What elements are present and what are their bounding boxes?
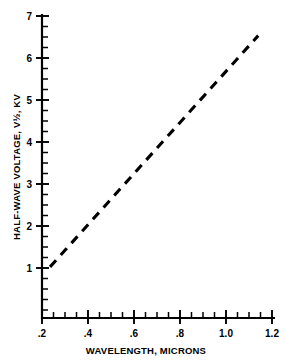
y-tick-label: 2: [26, 221, 32, 232]
x-tick-label: 1.0: [219, 328, 233, 339]
x-axis-title: WAVELENGTH, MICRONS: [86, 345, 206, 356]
x-tick-label: .4: [84, 328, 93, 339]
x-tick-label: .6: [130, 328, 139, 339]
y-tick-label: 4: [26, 137, 32, 148]
x-tick-label: .8: [176, 328, 185, 339]
y-tick-label: 1: [26, 263, 32, 274]
y-tick-label: 7: [26, 11, 32, 22]
y-tick-label: 3: [26, 179, 32, 190]
x-tick-label: .2: [38, 328, 47, 339]
y-axis-title: HALF-WAVE VOLTAGE, V½, KV: [11, 94, 22, 240]
y-tick-label: 6: [26, 53, 32, 64]
chart-figure: 7 6 5 4 3 2 1 .2 .4 .6 .8 1.0 1.2 WAVELE…: [0, 0, 286, 361]
y-tick-label: 5: [26, 95, 32, 106]
chart-svg: 7 6 5 4 3 2 1 .2 .4 .6 .8 1.0 1.2 WAVELE…: [0, 0, 286, 361]
x-tick-label: 1.2: [265, 328, 279, 339]
